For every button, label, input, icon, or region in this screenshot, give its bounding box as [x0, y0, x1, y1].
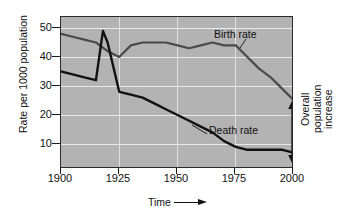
- arrow-head-down-icon: [288, 155, 293, 163]
- overall-population-increase-label: Overall population increase: [300, 66, 335, 152]
- x-tick-label-1925: 1925: [96, 172, 140, 184]
- y-tick-mark-50: [52, 27, 60, 28]
- plot-area: Birth rate Death rate: [60, 16, 293, 168]
- x-tick-label-1975: 1975: [212, 172, 256, 184]
- y-tick-label-10: 10: [12, 138, 52, 149]
- death-rate-label: Death rate: [209, 125, 258, 136]
- chart-figure: Rate per 1000 population 50 40 30 20 10 …: [0, 0, 350, 220]
- y-tick-mark-30: [52, 85, 60, 86]
- x-axis-title: Time: [148, 196, 208, 208]
- y-tick-mark-20: [52, 114, 60, 115]
- overall-label-line-3: increase: [323, 66, 335, 152]
- y-tick-label-40: 40: [12, 51, 52, 62]
- y-tick-label-50: 50: [12, 22, 52, 33]
- arrow-head-up-icon: [288, 101, 293, 109]
- y-tick-mark-40: [52, 56, 60, 57]
- x-tick-label-2000: 2000: [270, 172, 314, 184]
- x-axis-title-text: Time: [148, 196, 171, 208]
- y-tick-mark-10: [52, 143, 60, 144]
- birth-rate-label: Birth rate: [214, 29, 257, 40]
- arrow-right-icon: [174, 199, 208, 206]
- overall-increase-arrow: [61, 17, 293, 168]
- y-tick-label-20: 20: [12, 109, 52, 120]
- x-tick-label-1950: 1950: [154, 172, 198, 184]
- y-tick-label-30: 30: [12, 80, 52, 91]
- x-tick-label-1900: 1900: [38, 172, 82, 184]
